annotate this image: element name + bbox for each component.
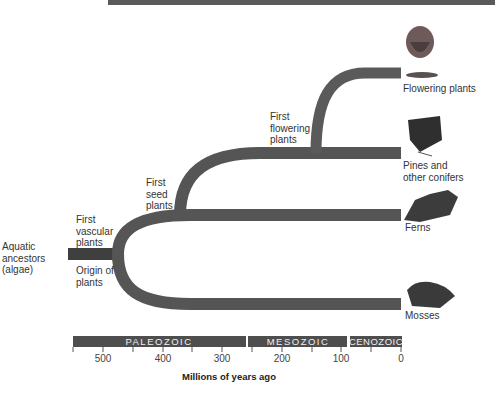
tick-label-400: 400 (155, 353, 172, 364)
era-label-paleozoic: PALEOZOIC (125, 336, 192, 347)
axis-ticks (73, 347, 401, 352)
event-label-seed: First seed plants (146, 177, 178, 212)
group-label-flowering: Flowering plants (403, 83, 495, 95)
event-label-flowering: First flowering plants (270, 111, 316, 146)
ancestor-label: Aquatic ancestors (algae) (2, 241, 54, 276)
group-label-ferns: Ferns (405, 222, 465, 234)
era-bar-paleozoic: PALEOZOIC (73, 336, 246, 347)
group-label-mosses: Mosses (405, 310, 465, 322)
era-label-cenozoic: CENOZOIC (349, 336, 403, 347)
event-label-vascular: First vascular plants (76, 214, 122, 249)
branch-seed (180, 153, 401, 215)
branch-flowering (316, 73, 401, 153)
flower-icon (406, 26, 438, 78)
era-bar-cenozoic: CENOZOIC (349, 336, 403, 347)
branch-mosses (118, 254, 401, 304)
event-label-origin: Origin of plants (76, 265, 124, 288)
tick-label-100: 100 (333, 353, 350, 364)
phylogeny-tree: PALEOZOIC MESOZOIC CENOZOIC 500 400 300 … (0, 0, 495, 395)
era-bar-mesozoic: MESOZOIC (248, 336, 347, 347)
group-label-conifers: Pines and other conifers (403, 160, 473, 183)
fern-icon (404, 190, 458, 222)
tick-label-500: 500 (95, 353, 112, 364)
tick-label-300: 300 (214, 353, 231, 364)
tick-label-200: 200 (274, 353, 291, 364)
conifer-icon (408, 116, 442, 156)
branch-vascular (118, 215, 401, 254)
axis-title: Millions of years ago (182, 371, 276, 382)
era-label-mesozoic: MESOZOIC (267, 336, 330, 347)
tick-label-0: 0 (398, 353, 404, 364)
moss-icon (407, 282, 455, 308)
